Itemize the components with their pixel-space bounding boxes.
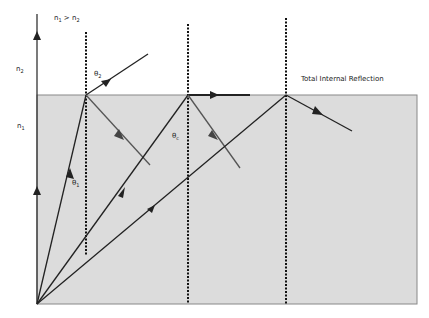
medium-n1-label: n1 xyxy=(17,122,25,131)
medium-n2-label: n2 xyxy=(16,65,24,74)
arrow-up-icon xyxy=(33,31,41,40)
theta2-label: θ2 xyxy=(94,70,101,79)
tir-diagram: n1 > n2 n2 n1 θ2 θ1 θc Total Internal Re… xyxy=(0,0,429,318)
condition-label: n1 > n2 xyxy=(54,14,80,23)
diagram-title: Total Internal Reflection xyxy=(300,75,384,83)
medium-n1-region xyxy=(37,95,417,304)
arrow-icon xyxy=(101,79,111,87)
